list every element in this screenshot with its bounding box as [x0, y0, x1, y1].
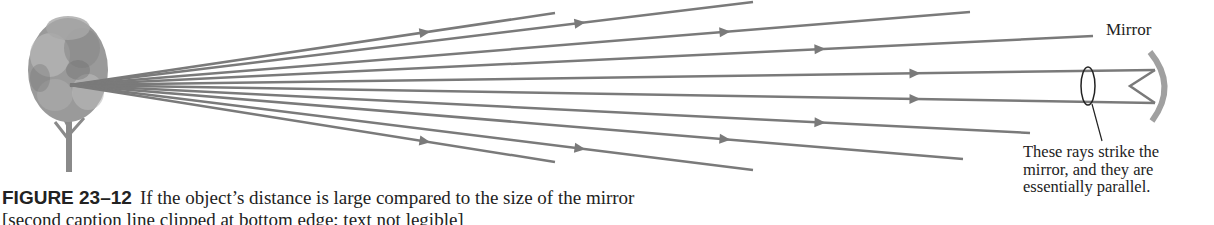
arrowhead-icon [909, 94, 920, 104]
concave-mirror [1150, 52, 1165, 121]
tree-icon [28, 16, 108, 172]
caption-text-line2: [second caption line clipped at bottom e… [2, 209, 634, 225]
annotation-line: These rays strike the [1023, 143, 1159, 161]
mirror-label: Mirror [1106, 20, 1151, 40]
highlight-ellipse [1081, 67, 1095, 105]
rays-annotation: These rays strike the mirror, and they a… [1023, 143, 1159, 196]
arrowhead-icon [419, 28, 431, 38]
ray-line [70, 85, 753, 170]
arrowhead-icon [719, 27, 730, 37]
figure-number: FIGURE 23–12 [2, 187, 132, 208]
arrowhead-icon [419, 136, 431, 146]
arrowhead-icon [814, 44, 825, 54]
arrowhead-icon [814, 117, 825, 127]
ray-line [70, 2, 753, 85]
reflected-rays [1130, 70, 1155, 103]
figure-caption: FIGURE 23–12If the object’s distance is … [2, 187, 634, 225]
arrowhead-icon [719, 134, 730, 144]
annotation-leader-line [1092, 104, 1102, 141]
light-rays [70, 2, 1155, 170]
figure-stage: Mirror These rays strike the mirror, and… [0, 0, 1214, 225]
annotation-line: mirror, and they are [1023, 161, 1159, 179]
arrowhead-icon [909, 68, 920, 78]
caption-text-line1: If the object’s distance is large compar… [140, 187, 635, 208]
annotation-line: essentially parallel. [1023, 178, 1159, 196]
